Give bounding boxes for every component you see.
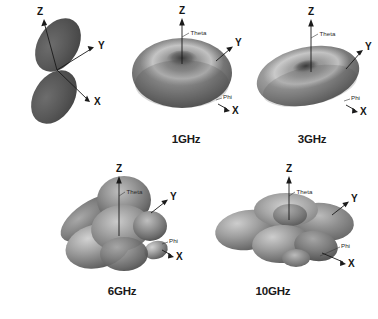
x-axis-arrowhead xyxy=(340,260,346,266)
z-axis-arrowhead xyxy=(41,19,47,26)
x-axis-label: X xyxy=(176,251,183,262)
x-axis-label: X xyxy=(360,106,367,117)
panel-dipole: Z Y X xyxy=(14,4,124,130)
lobe-lower-center-6ghz xyxy=(100,237,148,271)
z-axis-arrowhead xyxy=(308,19,314,27)
frequency-label-10ghz: 10GHz xyxy=(228,285,318,297)
phi-label: Phi xyxy=(169,237,178,244)
theta-leader-line xyxy=(311,34,318,38)
y-axis-label: Y xyxy=(170,191,177,202)
phi-label: Phi xyxy=(351,94,360,101)
y-axis-label: Y xyxy=(235,37,242,48)
multilobe-pattern-graphic-6ghz: Z Theta Y Phi X xyxy=(58,158,190,282)
panel-3ghz: Z Theta Y Phi X xyxy=(250,6,376,130)
phi-label: Phi xyxy=(341,242,350,249)
x-axis-arrowhead xyxy=(168,253,174,259)
dipole-lower-lobe xyxy=(22,62,87,132)
torus-bottom-shade-1ghz xyxy=(135,60,229,108)
theta-label: Theta xyxy=(320,30,336,37)
panel-1ghz: Z Theta Y Phi X xyxy=(126,6,244,130)
x-axis-arrowhead xyxy=(352,108,358,114)
theta-label: Theta xyxy=(297,188,313,195)
theta-leader-line xyxy=(182,33,189,37)
phi-label: Phi xyxy=(223,93,232,100)
z-axis-label: Z xyxy=(308,6,314,17)
torus-pattern-graphic-3ghz: Z Theta Y Phi X xyxy=(250,6,376,130)
z-axis-arrowhead xyxy=(179,18,185,26)
lobe-center-crater-10ghz xyxy=(273,204,307,226)
multilobe-pattern-graphic-10ghz: Z Theta Y Phi X xyxy=(210,158,368,282)
frequency-label-1ghz: 1GHz xyxy=(146,133,226,145)
lobe-right-6ghz xyxy=(133,211,167,241)
z-axis-label: Z xyxy=(37,6,43,17)
lobe-bottom-nub-10ghz xyxy=(282,249,310,267)
theta-label: Theta xyxy=(127,188,143,195)
frequency-label-3ghz: 3GHz xyxy=(272,133,352,145)
z-axis-label: Z xyxy=(286,163,292,174)
panel-6ghz: Z Theta Y Phi X xyxy=(58,158,190,282)
y-axis-line xyxy=(151,202,165,213)
z-axis-label: Z xyxy=(116,163,122,174)
frequency-label-6ghz: 6GHz xyxy=(82,285,162,297)
dipole-pattern-graphic: Z Y X xyxy=(14,4,124,130)
theta-label: Theta xyxy=(191,29,207,36)
y-axis-label: Y xyxy=(98,40,105,51)
y-axis-label: Y xyxy=(351,193,358,204)
x-axis-arrowhead xyxy=(224,107,230,113)
y-axis-arrowhead xyxy=(356,50,363,56)
z-axis-label: Z xyxy=(179,5,185,16)
radiation-pattern-figure: Z Y X xyxy=(0,0,378,319)
z-axis-arrowhead xyxy=(286,176,292,184)
x-axis-arrowhead xyxy=(85,96,90,102)
phi-leader-line xyxy=(344,99,350,101)
torus-pattern-graphic-1ghz: Z Theta Y Phi X xyxy=(126,6,244,130)
y-axis-label: Y xyxy=(365,41,372,52)
panel-10ghz: Z Theta Y Phi X xyxy=(210,158,368,282)
x-axis-label: X xyxy=(232,105,239,116)
x-axis-label: X xyxy=(348,258,355,269)
x-axis-label: X xyxy=(94,96,101,107)
